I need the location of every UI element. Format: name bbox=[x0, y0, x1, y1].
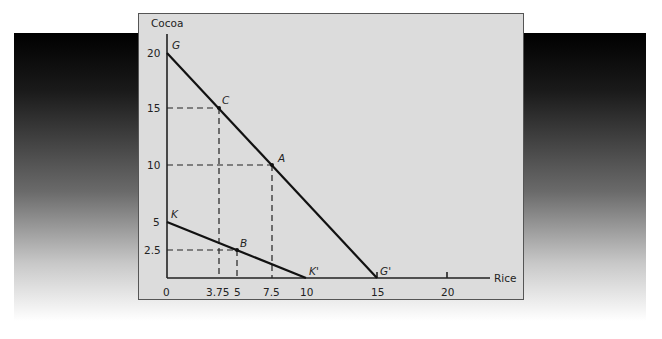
x-axis-label: Rice bbox=[494, 272, 516, 284]
point-label-G-prime: G' bbox=[380, 265, 391, 277]
x-tick: 10 bbox=[300, 286, 313, 298]
x-tick: 3.75 bbox=[206, 286, 229, 298]
point-label-B: B bbox=[240, 237, 247, 249]
x-tick: 15 bbox=[371, 286, 384, 298]
y-tick: 5 bbox=[153, 216, 160, 228]
point-label-K: K bbox=[171, 208, 179, 220]
x-tick: 7.5 bbox=[263, 286, 280, 298]
point-label-C: C bbox=[222, 94, 230, 106]
point-label-G: G bbox=[172, 39, 180, 51]
x-tick: 0 bbox=[163, 286, 170, 298]
point-label-K-prime: K' bbox=[309, 265, 319, 277]
x-tick: 20 bbox=[441, 286, 454, 298]
production-possibilities-chart: Cocoa Rice 20 15 10 5 2.5 0 3.75 5 7.5 1… bbox=[0, 0, 662, 339]
x-tick: 5 bbox=[234, 286, 241, 298]
points bbox=[217, 106, 274, 252]
y-tick: 10 bbox=[147, 159, 160, 171]
y-tick: 15 bbox=[147, 102, 160, 114]
y-tick: 2.5 bbox=[144, 244, 161, 256]
point-label-A: A bbox=[277, 152, 285, 164]
y-tick: 20 bbox=[147, 47, 160, 59]
y-axis-label: Cocoa bbox=[151, 17, 183, 29]
dashed-guides bbox=[167, 108, 272, 278]
